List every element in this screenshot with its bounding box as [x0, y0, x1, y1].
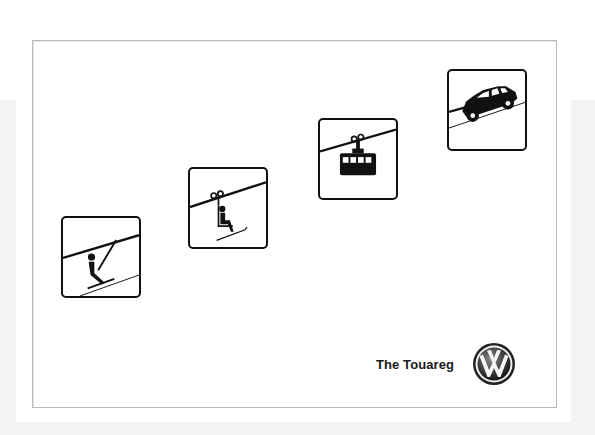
chairlift-icon: [190, 169, 266, 247]
sign-surface-lift: [61, 216, 141, 298]
sign-chairlift: [188, 167, 268, 249]
sign-gondola: [318, 118, 398, 200]
volkswagen-logo: [472, 342, 516, 386]
brand-tagline: The Touareg: [376, 357, 454, 372]
vw-logo-icon: [472, 342, 516, 386]
suv-climbing-hill-icon: [449, 71, 525, 149]
gondola-cable-car-icon: [320, 120, 396, 198]
sign-suv-hill: [447, 69, 527, 151]
t-bar-surface-lift-icon: [63, 218, 139, 296]
